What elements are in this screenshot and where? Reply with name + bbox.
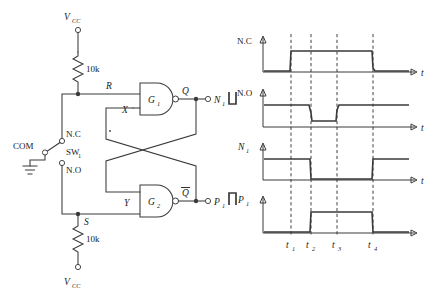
circuit-schematic: V CC 10k R N.C N.O SW 1 COM S xyxy=(13,12,236,289)
tick-label-t2: t xyxy=(306,240,309,250)
switch-com-pivot[interactable] xyxy=(42,150,47,155)
vcc-bottom-terminal[interactable] xyxy=(75,264,80,269)
gate-g1-sublabel: 1 xyxy=(157,100,160,107)
gate-g2-output-bubble xyxy=(173,198,179,204)
waveform-n1-label: N xyxy=(237,142,245,152)
tick-sub-t4: 4 xyxy=(374,245,377,252)
resistor-top-value: 10k xyxy=(86,64,100,74)
tick-label-t1: t xyxy=(286,240,289,250)
node-y-label: Y xyxy=(124,198,131,208)
switch-no-label: N.O xyxy=(66,165,82,175)
resistor-bottom-value: 10k xyxy=(86,234,100,244)
ground-symbol xyxy=(23,166,37,174)
output-n1-label: N xyxy=(213,95,221,105)
tick-sub-t3: 3 xyxy=(337,245,341,252)
figure-canvas: V CC 10k R N.C N.O SW 1 COM S xyxy=(0,0,434,294)
waveform-p1-label: P xyxy=(237,195,244,205)
waveform-p1-sublabel: 1 xyxy=(246,200,249,207)
p1-waveform-trace xyxy=(264,212,409,232)
switch-com-label: COM xyxy=(13,141,34,151)
vcc-top-label: V xyxy=(64,12,71,22)
tick-sub-t2: 2 xyxy=(312,245,316,252)
node-r-label: R xyxy=(105,81,112,91)
timing-diagram: N.C t N.O t N 1 t xyxy=(237,34,424,252)
switch-blade[interactable] xyxy=(46,143,60,153)
waveform-n1-sublabel: 1 xyxy=(246,147,249,154)
waveform-row-nc: N.C t xyxy=(237,36,424,78)
n1-axis-t-label: t xyxy=(421,176,424,186)
waveform-row-no: N.O t xyxy=(237,88,424,133)
stray-mark xyxy=(109,130,111,132)
node-q-label: Q xyxy=(182,86,189,96)
switch-nc-label: N.C xyxy=(66,129,81,139)
output-p1-terminal[interactable] xyxy=(205,198,210,203)
gate-g1-label: G xyxy=(148,95,155,105)
resistor-top-10k xyxy=(73,52,83,94)
resistor-bottom-10k xyxy=(73,214,83,265)
switch-name-sublabel: 1 xyxy=(78,152,81,159)
vcc-bottom-sublabel: CC xyxy=(72,282,81,289)
waveform-nc-label: N.C xyxy=(237,36,252,46)
tick-label-t4: t xyxy=(368,240,371,250)
output-p1-sublabel: 1 xyxy=(222,202,225,209)
vcc-top-sublabel: CC xyxy=(72,17,81,24)
tick-sub-t1: 1 xyxy=(292,245,295,252)
output-p1-label: P xyxy=(213,197,220,207)
nc-waveform-trace xyxy=(264,51,409,71)
node-x-label: X xyxy=(121,105,129,115)
output-n1-terminal[interactable] xyxy=(205,96,210,101)
node-s-label: S xyxy=(84,217,89,227)
no-axis-t-label: t xyxy=(421,123,424,133)
gate-g1-output-bubble xyxy=(173,96,179,102)
vcc-top-terminal[interactable] xyxy=(75,27,80,32)
switch-no-terminal[interactable] xyxy=(59,160,64,165)
no-waveform-trace xyxy=(264,105,409,121)
schematic-and-timing-svg: V CC 10k R N.C N.O SW 1 COM S xyxy=(0,0,434,294)
time-tick-labels: t 1 t 2 t 3 t 4 xyxy=(286,240,377,252)
tick-label-t3: t xyxy=(332,240,335,250)
n1-negative-pulse-icon xyxy=(229,92,236,104)
node-qbar-label: Q xyxy=(182,188,189,198)
nc-axis-t-label: t xyxy=(421,68,424,78)
time-marker-lines xyxy=(291,34,373,237)
gate-g2-label: G xyxy=(148,197,155,207)
waveform-no-label: N.O xyxy=(237,88,253,98)
waveform-row-p1: P 1 xyxy=(237,195,417,236)
vcc-bottom-label: V xyxy=(64,277,71,287)
p1-positive-pulse-icon xyxy=(229,193,236,205)
output-n1-sublabel: 1 xyxy=(222,100,225,107)
wire-com-to-ground xyxy=(30,155,45,166)
n1-waveform-trace xyxy=(264,159,409,179)
waveform-row-n1: N 1 t xyxy=(237,142,424,186)
